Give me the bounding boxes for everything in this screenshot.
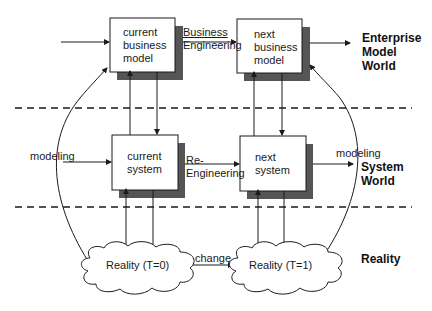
label-modeling-left: modeling: [30, 150, 75, 163]
text-line: Business: [183, 26, 242, 39]
arc-left-modeling: [56, 68, 107, 261]
text-line: Re-: [186, 154, 245, 167]
text-line: business: [254, 41, 297, 54]
world-enterprise-model: Enterprise Model World: [362, 31, 421, 73]
text-line: Engineering: [183, 39, 242, 52]
label-next-business-model: next business model: [254, 28, 297, 67]
text-line: Enterprise: [362, 31, 421, 45]
text-line: Engineering: [186, 167, 245, 180]
text-line: system: [127, 163, 162, 176]
text-line: model: [254, 54, 297, 67]
text-line: Model: [362, 45, 421, 59]
label-reality-t0: Reality (T=0): [106, 259, 169, 272]
label-next-system: next system: [255, 151, 290, 177]
text-line: next: [254, 28, 297, 41]
text-line: World: [361, 174, 404, 188]
label-re-engineering: Re- Engineering: [186, 154, 245, 180]
label-modeling-right: modeling: [336, 147, 381, 160]
label-current-business-model: current business model: [123, 26, 166, 65]
text-line: business: [123, 39, 166, 52]
text-line: next: [255, 151, 290, 164]
world-reality: Reality: [361, 252, 400, 266]
text-line: system: [255, 164, 290, 177]
text-line: model: [123, 52, 166, 65]
text-line: World: [362, 59, 421, 73]
label-business-engineering: Business Engineering: [183, 26, 242, 52]
world-system: System World: [361, 160, 404, 188]
label-change: change: [195, 252, 231, 265]
label-reality-t1: Reality (T=1): [249, 259, 312, 272]
label-current-system: current system: [127, 150, 162, 176]
text-line: current: [123, 26, 166, 39]
text-line: System: [361, 160, 404, 174]
text-line: current: [127, 150, 162, 163]
